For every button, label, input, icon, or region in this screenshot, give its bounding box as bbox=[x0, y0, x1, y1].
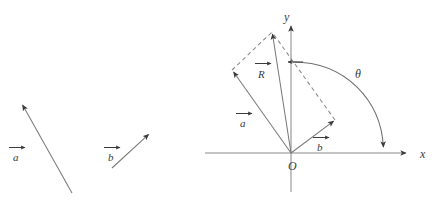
left-vector-b-label-group: b bbox=[104, 148, 120, 164]
right-panel-group: x y a b R bbox=[205, 10, 426, 192]
left-vector-a-label-group: a bbox=[9, 148, 25, 164]
construction-dashed-line-b-to-r bbox=[272, 32, 335, 120]
origin-label: O bbox=[288, 159, 297, 173]
figure-canvas: a b x y a bbox=[0, 0, 438, 207]
theta-label: θ bbox=[355, 67, 361, 81]
resultant-vector-r-label: R bbox=[257, 68, 265, 80]
left-panel-group: a b bbox=[9, 105, 149, 193]
left-vector-a-arrow bbox=[23, 105, 72, 193]
right-vector-a-label-group: a bbox=[236, 114, 252, 130]
y-axis-label: y bbox=[283, 10, 290, 24]
vector-diagram-svg: a b x y a bbox=[0, 0, 438, 207]
right-vector-a-label: a bbox=[240, 117, 246, 129]
x-axis-label: x bbox=[419, 147, 426, 161]
resultant-r-label-group: R bbox=[255, 64, 271, 81]
left-vector-b-arrow bbox=[112, 134, 149, 168]
resultant-vector-r-arrow bbox=[273, 34, 292, 153]
right-vector-b-label-group: b bbox=[313, 138, 329, 154]
theta-arc bbox=[293, 62, 383, 147]
left-vector-a-label: a bbox=[13, 151, 19, 163]
left-vector-b-label: b bbox=[108, 151, 114, 163]
right-vector-a-arrow bbox=[234, 72, 291, 153]
construction-dashed-line-a-to-r bbox=[232, 32, 272, 70]
right-vector-b-label: b bbox=[317, 141, 323, 153]
